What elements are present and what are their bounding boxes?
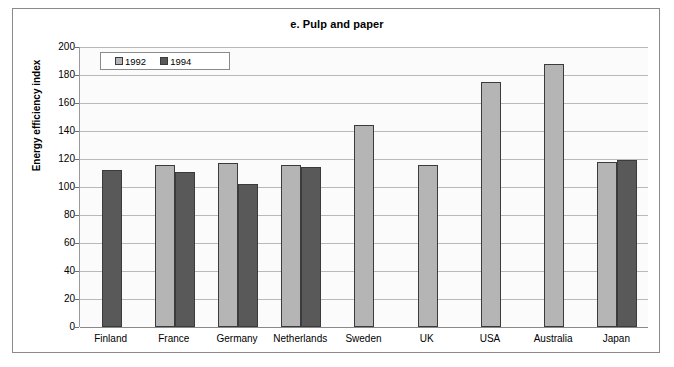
x-axis-tick-label: Germany	[205, 333, 268, 344]
y-axis-tick-labels: 200180160140120100806040200	[33, 47, 75, 327]
x-axis-tick-label: France	[142, 333, 205, 344]
chart-screenshot: e. Pulp and paper Energy efficiency inde…	[0, 0, 674, 367]
bar-group	[459, 47, 522, 327]
legend-swatch	[160, 57, 168, 65]
x-axis-tick-label: USA	[458, 333, 521, 344]
legend-label: 1994	[170, 56, 191, 67]
chart-title: e. Pulp and paper	[0, 18, 674, 30]
legend-label: 1992	[125, 56, 146, 67]
legend-item: 1994	[160, 56, 191, 67]
y-axis-tick-mark	[75, 327, 79, 328]
bar	[102, 170, 122, 327]
x-axis-tick-label: Sweden	[332, 333, 395, 344]
plot-area	[79, 47, 648, 327]
bar	[301, 167, 321, 327]
y-axis-tick-label: 0	[35, 322, 75, 332]
x-axis-tick-label: Japan	[585, 333, 648, 344]
bar-group	[206, 47, 269, 327]
y-axis-tick-label: 40	[35, 266, 75, 276]
y-axis-tick-label: 60	[35, 238, 75, 248]
bar	[544, 64, 564, 327]
legend-item: 1992	[115, 56, 146, 67]
bar-group	[270, 47, 333, 327]
y-axis-tick-label: 160	[35, 98, 75, 108]
y-axis-tick-label: 20	[35, 294, 75, 304]
chart-legend: 19921994	[100, 52, 230, 70]
bar-group	[333, 47, 396, 327]
y-axis-tick-label: 120	[35, 154, 75, 164]
bar	[175, 172, 195, 327]
bar	[597, 162, 617, 327]
y-axis-tick-label: 100	[35, 182, 75, 192]
bar	[418, 165, 438, 327]
gridline	[80, 327, 648, 328]
bar-group	[523, 47, 586, 327]
y-axis-tick-label: 180	[35, 70, 75, 80]
bar	[218, 163, 238, 327]
legend-swatch	[115, 57, 123, 65]
x-axis-tick-label: Australia	[522, 333, 585, 344]
y-axis-tick-label: 140	[35, 126, 75, 136]
bar	[617, 160, 637, 327]
y-axis-tick-label: 80	[35, 210, 75, 220]
bar-group	[80, 47, 143, 327]
bar-group	[586, 47, 649, 327]
y-axis-tick-label: 200	[35, 42, 75, 52]
x-axis-tick-label: Netherlands	[269, 333, 332, 344]
bar-group	[396, 47, 459, 327]
bar	[155, 165, 175, 327]
bar	[281, 165, 301, 327]
bar-group	[143, 47, 206, 327]
x-axis-tick-label: Finland	[79, 333, 142, 344]
bar	[481, 82, 501, 327]
bar	[238, 184, 258, 327]
x-axis-tick-label: UK	[395, 333, 458, 344]
bar	[354, 125, 374, 327]
